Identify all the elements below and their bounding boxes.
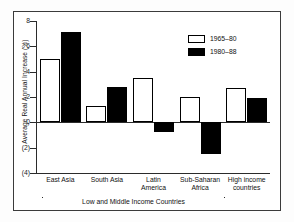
y-tick-0	[30, 122, 37, 123]
bar-sub-saharan-africa-1965-80	[180, 97, 200, 122]
y-tick-label-neg4: (4)	[14, 169, 30, 176]
bar-high-income-countries-1980-88	[247, 98, 267, 123]
bar-latin-america-1980-88	[154, 122, 174, 132]
y-tick-2	[30, 97, 37, 98]
bar-south-asia-1965-80	[86, 106, 106, 122]
x-label-high-income-countries: High incomecountries	[223, 176, 270, 193]
legend-label-1980-88: 1980–88	[210, 48, 236, 55]
bar-east-asia-1980-88	[61, 32, 81, 122]
bar-latin-america-1965-80	[133, 78, 153, 122]
y-tick-neg2	[30, 148, 37, 149]
x-axis-line	[36, 173, 270, 174]
y-tick-4	[30, 72, 37, 73]
bar-south-asia-1980-88	[107, 87, 127, 122]
legend-item-1980-88: 1980–88	[188, 46, 236, 57]
chart-figure: Average Real Annual Increase (%) 8 6 4 2…	[0, 0, 294, 222]
y-tick-8	[30, 21, 37, 22]
bar-sub-saharan-africa-1980-88	[201, 122, 221, 154]
y-tick-label-2: 2	[14, 93, 30, 100]
y-tick-6	[30, 46, 37, 47]
x-label-east-asia: East Asia	[37, 176, 84, 184]
bar-east-asia-1965-80	[40, 59, 60, 122]
income-group-bracket-label: Low and Middle Income Countries	[42, 198, 225, 205]
legend-swatch-dark	[188, 48, 205, 56]
x-label-latin-america: LatinAmerica	[130, 176, 177, 193]
x-label-south-asia: South Asia	[84, 176, 131, 184]
y-tick-label-6: 6	[14, 42, 30, 49]
bar-high-income-countries-1965-80	[226, 88, 246, 122]
y-tick-label-0: 0	[14, 118, 30, 125]
y-tick-label-neg2: (2)	[14, 144, 30, 151]
legend-swatch-light	[188, 35, 205, 43]
legend-item-1965-80: 1965–80	[188, 33, 236, 44]
y-tick-neg4	[30, 173, 37, 174]
y-tick-label-4: 4	[14, 68, 30, 75]
legend-label-1965-80: 1965–80	[210, 35, 236, 42]
chart-legend: 1965–80 1980–88	[188, 33, 236, 59]
x-axis-categories: East AsiaSouth AsiaLatinAmericaSub-Sahar…	[37, 176, 270, 198]
x-label-sub-saharan-africa: Sub-SaharanAfrica	[177, 176, 224, 193]
y-tick-label-8: 8	[14, 17, 30, 24]
